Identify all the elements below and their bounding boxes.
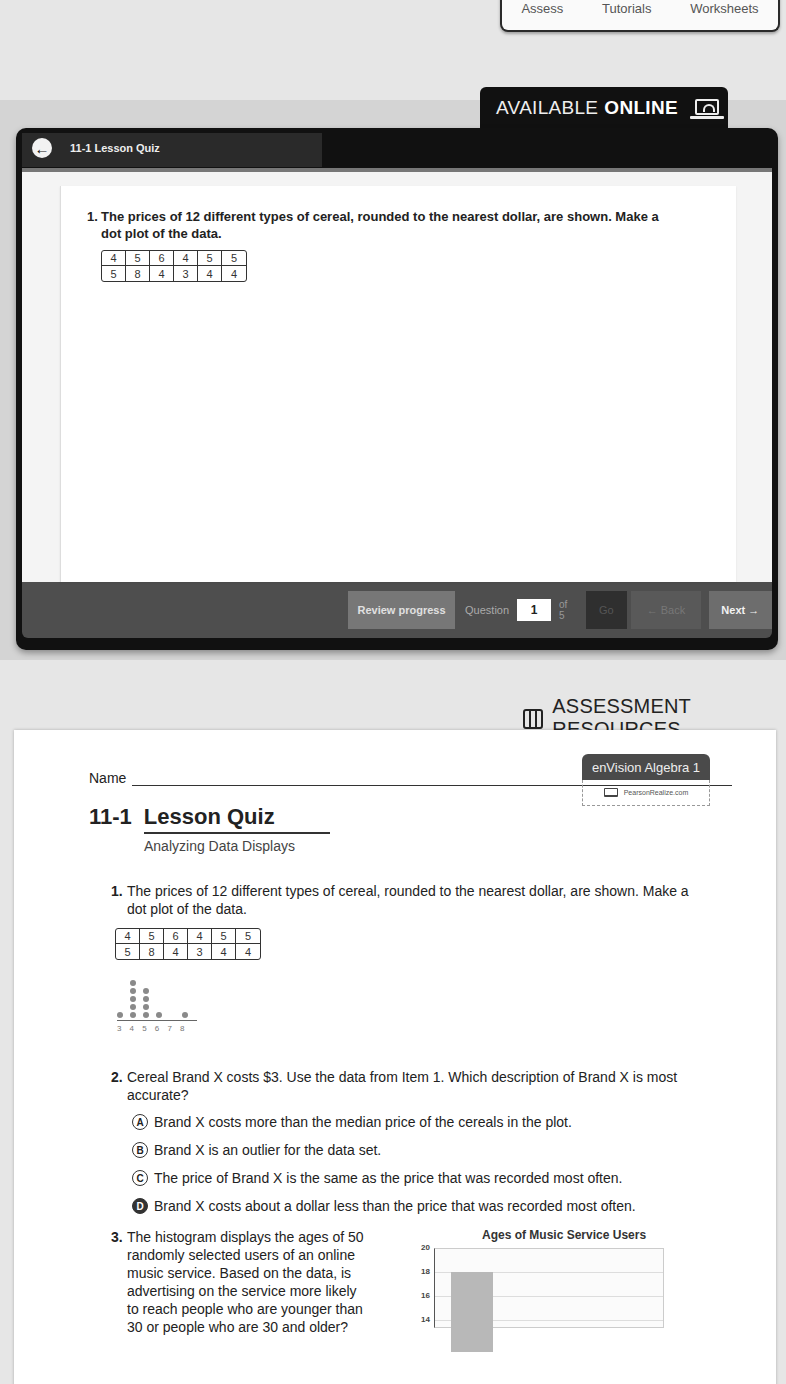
table-cell: 4 bbox=[164, 944, 188, 959]
dot-plot-ticks: 3 4 5 6 7 8 bbox=[117, 1024, 193, 1033]
option-text: Brand X costs more than the median price… bbox=[154, 1114, 572, 1130]
dot bbox=[182, 1012, 188, 1018]
review-progress-button[interactable]: Review progress bbox=[348, 591, 455, 629]
option-b[interactable]: B Brand X is an outlier for the data set… bbox=[132, 1142, 381, 1158]
tick-label: 8 bbox=[180, 1024, 193, 1033]
banner-emphasis: ONLINE bbox=[604, 97, 678, 119]
question-number: 1. bbox=[87, 208, 101, 242]
dot bbox=[143, 1012, 149, 1018]
tick-label: 4 bbox=[130, 1024, 143, 1033]
back-button[interactable]: ← Back bbox=[631, 591, 700, 629]
go-button[interactable]: Go bbox=[586, 591, 628, 629]
question-text: Cereal Brand X costs $3. Use the data fr… bbox=[127, 1068, 707, 1104]
option-letter-a: A bbox=[132, 1114, 148, 1130]
table-cell: 5 bbox=[102, 266, 126, 281]
question-text: The histogram displays the ages of 50 ra… bbox=[127, 1228, 367, 1336]
dot bbox=[143, 1004, 149, 1010]
table-cell: 4 bbox=[116, 929, 140, 944]
y-tick-label: 16 bbox=[416, 1291, 430, 1300]
histogram-plot-area bbox=[434, 1248, 664, 1328]
quiz-title: 11-1 Lesson Quiz bbox=[70, 142, 160, 154]
tab-tutorials[interactable]: Tutorials bbox=[602, 1, 651, 16]
lesson-number: 11-1 bbox=[89, 804, 132, 830]
table-cell: 5 bbox=[222, 251, 246, 266]
option-d[interactable]: D Brand X costs about a dollar less than… bbox=[132, 1198, 636, 1214]
next-button[interactable]: Next → bbox=[709, 591, 772, 629]
option-letter-d-selected: D bbox=[132, 1198, 148, 1214]
table-cell: 5 bbox=[116, 944, 140, 959]
option-letter-b: B bbox=[132, 1142, 148, 1158]
dot bbox=[130, 980, 136, 986]
question-card: 1. The prices of 12 different types of c… bbox=[60, 186, 736, 582]
name-label: Name bbox=[89, 770, 126, 786]
price-data-table: 4 5 6 4 5 5 5 8 4 3 4 4 bbox=[101, 250, 247, 282]
question-number: 2. bbox=[111, 1068, 127, 1104]
back-arrow-icon[interactable]: ← bbox=[32, 138, 52, 158]
quiz-navigation-bar: Review progress Question of 5 Go ← Back … bbox=[22, 582, 772, 638]
option-letter-c: C bbox=[132, 1170, 148, 1186]
table-cell: 4 bbox=[102, 251, 126, 266]
table-cell: 5 bbox=[126, 251, 150, 266]
histogram-bar bbox=[451, 1272, 493, 1352]
brand-link-text: PearsonRealize.com bbox=[624, 789, 689, 796]
lesson-title: 11-1 Lesson Quiz bbox=[89, 804, 330, 834]
table-cell: 8 bbox=[126, 266, 150, 281]
tick-label: 7 bbox=[167, 1024, 180, 1033]
question-label: Question bbox=[465, 604, 509, 616]
lesson-name: Lesson Quiz bbox=[144, 804, 330, 834]
dot-plot-axis bbox=[117, 1020, 197, 1021]
histogram-title: Ages of Music Service Users bbox=[482, 1228, 646, 1242]
question-number: 3. bbox=[111, 1228, 127, 1336]
tab-assess[interactable]: Assess bbox=[521, 1, 563, 16]
brand-link-box: PearsonRealize.com bbox=[582, 780, 710, 806]
quiz-app-header: ← 11-1 Lesson Quiz bbox=[22, 128, 772, 168]
table-cell: 5 bbox=[198, 251, 222, 266]
histogram: 20 18 16 14 bbox=[416, 1248, 708, 1328]
quiz-content-area: 1. The prices of 12 different types of c… bbox=[22, 168, 772, 582]
table-cell: 6 bbox=[150, 251, 174, 266]
table-cell: 4 bbox=[150, 266, 174, 281]
lesson-subtitle: Analyzing Data Displays bbox=[144, 838, 295, 854]
book-icon bbox=[522, 708, 544, 728]
option-a[interactable]: A Brand X costs more than the median pri… bbox=[132, 1114, 572, 1130]
brand-badge: enVision Algebra 1 bbox=[582, 754, 710, 780]
worksheet-page: Name enVision Algebra 1 PearsonRealize.c… bbox=[14, 730, 776, 1384]
table-cell: 4 bbox=[188, 929, 212, 944]
dot-plot: 3 4 5 6 7 8 bbox=[117, 970, 197, 1034]
question-1: 1. The prices of 12 different types of c… bbox=[111, 882, 707, 918]
dot bbox=[130, 996, 136, 1002]
table-cell: 4 bbox=[236, 944, 260, 959]
laptop-wifi-icon bbox=[690, 99, 724, 121]
banner-prefix: AVAILABLE bbox=[496, 97, 598, 119]
table-cell: 4 bbox=[212, 944, 236, 959]
tab-worksheets[interactable]: Worksheets bbox=[690, 1, 758, 16]
question-2: 2. Cereal Brand X costs $3. Use the data… bbox=[111, 1068, 707, 1104]
tick-label: 5 bbox=[142, 1024, 155, 1033]
dot bbox=[143, 988, 149, 994]
table-cell: 3 bbox=[188, 944, 212, 959]
question-text: The prices of 12 different types of cere… bbox=[101, 208, 661, 242]
laptop-icon bbox=[604, 788, 618, 797]
table-cell: 3 bbox=[174, 266, 198, 281]
tick-label: 6 bbox=[155, 1024, 168, 1033]
table-cell: 4 bbox=[198, 266, 222, 281]
dot bbox=[130, 988, 136, 994]
dot bbox=[130, 1004, 136, 1010]
dot bbox=[130, 1012, 136, 1018]
y-tick-label: 20 bbox=[416, 1243, 430, 1252]
quiz-app-window: ← 11-1 Lesson Quiz 1. The prices of 12 d… bbox=[16, 128, 778, 650]
question-number-input[interactable] bbox=[517, 599, 551, 621]
option-text: Brand X costs about a dollar less than t… bbox=[154, 1198, 636, 1214]
top-tab-strip: Assess Tutorials Worksheets bbox=[500, 0, 780, 32]
option-c[interactable]: C The price of Brand X is the same as th… bbox=[132, 1170, 622, 1186]
y-tick-label: 18 bbox=[416, 1267, 430, 1276]
dot bbox=[117, 1012, 123, 1018]
price-data-table: 4 5 6 4 5 5 5 8 4 3 4 4 bbox=[115, 928, 261, 960]
question-3: 3. The histogram displays the ages of 50… bbox=[111, 1228, 367, 1336]
table-cell: 5 bbox=[140, 929, 164, 944]
table-cell: 4 bbox=[174, 251, 198, 266]
tick-label: 3 bbox=[117, 1024, 130, 1033]
y-tick-label: 14 bbox=[416, 1315, 430, 1324]
table-cell: 6 bbox=[164, 929, 188, 944]
option-text: Brand X is an outlier for the data set. bbox=[154, 1142, 381, 1158]
